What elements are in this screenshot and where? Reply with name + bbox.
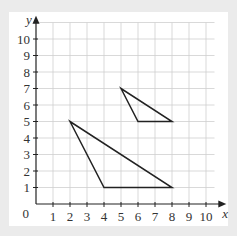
y-tick-label: 1: [24, 180, 31, 195]
x-tick-label: 1: [50, 209, 57, 224]
x-tick-label: 8: [169, 209, 176, 224]
x-tick-label: 5: [118, 209, 125, 224]
x-tick-label: 6: [135, 209, 142, 224]
x-tick-label: 9: [186, 209, 193, 224]
y-axis-arrow-icon: [33, 16, 40, 24]
x-axis-label: x: [221, 206, 228, 221]
coordinate-grid: 12345678910123456789100xy: [0, 0, 237, 236]
origin-label: 0: [23, 206, 30, 221]
y-tick-label: 3: [24, 147, 31, 162]
y-tick-label: 4: [24, 131, 31, 146]
y-tick-label: 6: [24, 98, 31, 113]
x-tick-label: 4: [101, 209, 108, 224]
x-tick-label: 2: [67, 209, 74, 224]
y-tick-label: 2: [24, 164, 31, 179]
y-tick-label: 9: [24, 48, 31, 63]
x-tick-label: 10: [200, 209, 213, 224]
y-tick-label: 8: [24, 65, 31, 80]
y-tick-label: 5: [24, 114, 31, 129]
x-tick-label: 7: [152, 209, 159, 224]
y-tick-label: 7: [24, 81, 31, 96]
y-tick-label: 10: [17, 32, 30, 47]
y-axis-label: y: [24, 12, 32, 27]
x-tick-label: 3: [84, 209, 91, 224]
